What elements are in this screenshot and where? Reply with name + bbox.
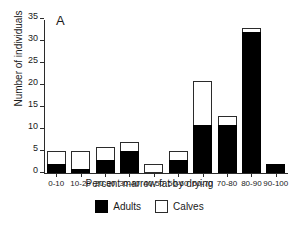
bar-segment-calves: [144, 164, 163, 173]
y-tick-mark: [40, 40, 44, 41]
legend-swatch-adults: [95, 200, 108, 213]
x-tick-mark: [129, 173, 130, 177]
legend-label: Adults: [113, 202, 141, 212]
bar-stack: [71, 151, 90, 173]
y-tick-mark: [40, 172, 44, 173]
bar-stack: [193, 81, 212, 173]
x-tick-mark: [56, 173, 57, 177]
y-tick-mark: [40, 18, 44, 19]
bar-segment-adults: [242, 32, 261, 173]
y-tick-mark: [40, 128, 44, 129]
y-tick-label: 15: [28, 100, 38, 109]
plot-area: 05101520253035 0-1010-2020-3030-4040-505…: [44, 20, 288, 174]
bar-stack: [242, 28, 261, 173]
x-tick-mark: [81, 173, 82, 177]
y-tick-mark: [40, 106, 44, 107]
x-tick-mark: [178, 173, 179, 177]
x-tick-mark: [105, 173, 106, 177]
legend-label: Calves: [173, 202, 204, 212]
y-tick-mark: [40, 150, 44, 151]
y-tick-label: 25: [28, 56, 38, 65]
x-tick-mark: [251, 173, 252, 177]
y-tick-label: 30: [28, 34, 38, 43]
legend: AdultsCalves: [0, 200, 299, 213]
y-tick-mark: [40, 84, 44, 85]
y-tick-label: 20: [28, 78, 38, 87]
y-axis-line: [44, 20, 45, 174]
bar-stack: [144, 164, 163, 173]
bar-stack: [96, 147, 115, 173]
x-tick-mark: [227, 173, 228, 177]
bar-stack: [120, 142, 139, 173]
legend-item-adults: Adults: [95, 200, 141, 213]
bar-segment-adults: [96, 160, 115, 173]
bar-stack: [218, 116, 237, 173]
bar-segment-adults: [169, 160, 188, 173]
x-tick-mark: [154, 173, 155, 177]
bar-stack: [266, 164, 285, 173]
bar-segment-adults: [218, 125, 237, 173]
bar-segment-adults: [266, 164, 285, 173]
bar-segment-adults: [71, 169, 90, 173]
bar-stack: [47, 151, 66, 173]
x-tick-mark: [276, 173, 277, 177]
y-tick-mark: [40, 62, 44, 63]
y-tick-label: 35: [28, 12, 38, 21]
legend-item-calves: Calves: [155, 200, 204, 213]
legend-swatch-calves: [155, 200, 168, 213]
figure-panel-a: A Number of individuals 05101520253035 0…: [0, 0, 299, 225]
x-tick-mark: [203, 173, 204, 177]
y-tick-label: 0: [33, 166, 38, 175]
y-tick-label: 10: [28, 122, 38, 131]
y-tick-label: 5: [33, 144, 38, 153]
bar-stack: [169, 151, 188, 173]
bar-segment-adults: [120, 151, 139, 173]
x-axis-title: Percent marrow fat by drying: [0, 178, 299, 189]
bar-segment-adults: [47, 164, 66, 173]
y-axis-title: Number of individuals: [13, 0, 24, 129]
bar-segment-adults: [193, 125, 212, 173]
